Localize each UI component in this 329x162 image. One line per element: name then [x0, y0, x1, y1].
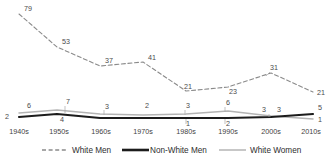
data-label: 2: [145, 101, 149, 110]
data-label: 3: [105, 102, 109, 111]
line-chart: 79 53 37 41 21 23 31 21 6 7 3 2 3 6 3 1 …: [0, 0, 329, 162]
x-tick: 2010s: [301, 127, 321, 136]
data-label: 21: [184, 82, 192, 91]
data-label: 6: [226, 98, 230, 107]
data-label: 31: [270, 63, 278, 72]
label-leader-lines: [65, 72, 270, 124]
data-label: 79: [24, 4, 32, 13]
x-axis-tick-labels: 1940s 1950s 1960s 1970s 1980s 1990s 2000…: [9, 127, 321, 136]
data-label: 53: [62, 37, 70, 46]
x-tick: 1980s: [176, 127, 196, 136]
data-label: 4: [60, 115, 64, 124]
legend-item-white-women[interactable]: White Women: [219, 146, 302, 155]
legend-item-white-men[interactable]: White Men: [42, 146, 112, 155]
x-tick: 1990s: [218, 127, 238, 136]
x-tick: 1960s: [91, 127, 111, 136]
chart-plot-area: 79 53 37 41 21 23 31 21 6 7 3 2 3 6 3 1 …: [0, 0, 329, 162]
x-tick: 2000s: [261, 127, 281, 136]
data-label: 5: [318, 103, 322, 112]
data-label: 2: [5, 112, 9, 121]
legend-label: Non-White Men: [150, 146, 207, 155]
data-label: 7: [66, 97, 70, 106]
data-label: 3: [262, 105, 266, 114]
data-label: 3: [277, 105, 281, 114]
legend-label: White Men: [72, 146, 112, 155]
x-tick: 1950s: [49, 127, 69, 136]
legend-item-non-white-men[interactable]: Non-White Men: [122, 146, 207, 155]
legend-label: White Women: [250, 146, 302, 155]
data-label: 41: [148, 53, 156, 62]
data-label: 23: [229, 87, 237, 96]
series-line-white-men: [19, 14, 313, 92]
chart-legend: White Men Non-White Men White Women: [42, 146, 302, 155]
data-label: 1: [318, 115, 322, 124]
x-tick: 1970s: [133, 127, 153, 136]
data-label: 37: [105, 56, 113, 65]
data-label: 6: [27, 101, 31, 110]
data-label: 21: [317, 88, 325, 97]
data-label: 3: [186, 101, 190, 110]
x-tick: 1940s: [9, 127, 29, 136]
